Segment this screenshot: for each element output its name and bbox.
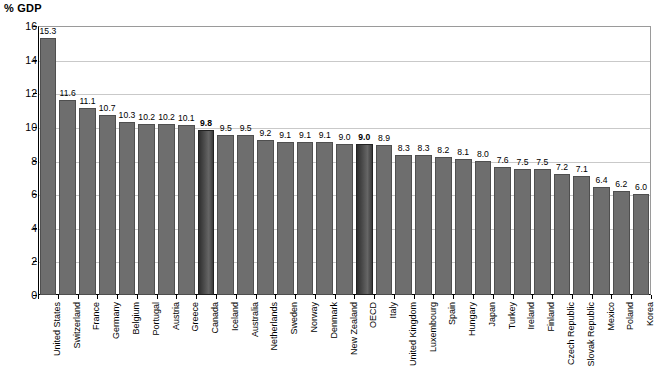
x-axis-tick-mark: [97, 295, 98, 299]
x-axis-tick-label: Slovak Republic: [586, 302, 596, 367]
x-axis-tick-mark: [117, 295, 118, 299]
bar-slot: 8.3: [414, 26, 434, 295]
x-axis-tick-mark: [532, 295, 533, 299]
bar-slot: 6.2: [611, 26, 631, 295]
x-axis-tick-mark: [78, 295, 79, 299]
x-axis-tick-mark: [453, 295, 454, 299]
x-axis-tick-mark: [433, 295, 434, 299]
x-axis-tick-mark: [572, 295, 573, 299]
bar: [494, 167, 511, 295]
bar-slot: 10.1: [176, 26, 196, 295]
bar-slot: 9.2: [256, 26, 276, 295]
x-axis-tick-label: OECD: [368, 302, 378, 328]
y-axis-tick-mark: [33, 194, 37, 195]
bar-slot: 10.3: [117, 26, 137, 295]
x-axis-tick-label: Norway: [309, 302, 319, 333]
bar-slot: 9.0: [354, 26, 374, 295]
x-axis-tick-label: Japan: [487, 302, 497, 327]
x-axis-tick-label: Switzerland: [72, 302, 82, 349]
x-axis-tick-mark: [335, 295, 336, 299]
bar-slot: 11.1: [78, 26, 98, 295]
x-axis-tick-mark: [354, 295, 355, 299]
bar: [534, 169, 551, 295]
x-axis-tick-label: Poland: [625, 302, 635, 330]
bar-value-label: 8.0: [477, 150, 489, 159]
x-axis-tick-mark: [216, 295, 217, 299]
x-axis-tick-label: Australia: [250, 302, 260, 337]
y-axis-tick-mark: [33, 228, 37, 229]
bar-value-label: 6.0: [635, 183, 647, 192]
bar-value-label: 8.2: [437, 146, 449, 155]
bar-slot: 7.5: [513, 26, 533, 295]
x-axis-tick-mark: [631, 295, 632, 299]
bar-highlighted: [198, 130, 215, 295]
bar-slot: 6.4: [592, 26, 612, 295]
x-axis-tick-mark: [592, 295, 593, 299]
bar-slot: 8.2: [433, 26, 453, 295]
bar: [554, 174, 571, 295]
x-axis-tick-label: Belgium: [131, 302, 141, 335]
bar: [99, 115, 116, 295]
bar-slot: 6.0: [631, 26, 651, 295]
x-axis-tick-label: Denmark: [329, 302, 339, 339]
x-axis-tick-mark: [137, 295, 138, 299]
bar-slot: 9.8: [196, 26, 216, 295]
x-axis-tick-label: Mexico: [606, 302, 616, 331]
bar-value-label: 6.4: [596, 176, 608, 185]
bar-slot: 7.6: [493, 26, 513, 295]
bar-value-label: 10.7: [99, 104, 116, 113]
bar: [277, 142, 294, 295]
bar-value-label: 7.6: [497, 156, 509, 165]
x-axis-tick-mark: [651, 295, 652, 299]
bar-slot: 8.9: [374, 26, 394, 295]
bar-value-label: 9.1: [319, 131, 331, 140]
x-axis-tick-label: Canada: [210, 302, 220, 334]
bar: [119, 122, 136, 295]
bar: [435, 157, 452, 295]
bar: [475, 161, 492, 296]
bar: [79, 108, 96, 295]
bar-slot: 9.1: [275, 26, 295, 295]
bar: [514, 169, 531, 295]
x-axis-tick-label: United States: [52, 302, 62, 356]
bar: [573, 176, 590, 295]
x-axis-tick-label: France: [91, 302, 101, 330]
x-axis-tick-mark: [513, 295, 514, 299]
x-axis-tick-label: Greece: [190, 302, 200, 332]
bar-slot: 9.1: [295, 26, 315, 295]
bar-value-label: 10.2: [158, 113, 175, 122]
y-axis-tick-mark: [33, 295, 37, 296]
bar-value-label: 10.1: [178, 114, 195, 123]
x-axis-tick-mark: [315, 295, 316, 299]
bar-value-label: 9.2: [259, 129, 271, 138]
x-axis-tick-mark: [176, 295, 177, 299]
x-axis-tick-mark: [58, 295, 59, 299]
x-axis-tick-mark: [38, 295, 39, 299]
bar-value-label: 9.1: [299, 131, 311, 140]
y-axis-tick-mark: [33, 261, 37, 262]
x-axis-tick-label: Italy: [388, 302, 398, 319]
bar-value-label: 8.3: [398, 144, 410, 153]
x-axis-tick-label: Hungary: [467, 302, 477, 336]
y-axis: 0246810121416: [0, 26, 37, 295]
bar-slot: 11.6: [58, 26, 78, 295]
bar-value-label: 15.3: [40, 27, 57, 36]
y-axis-tick-mark: [33, 127, 37, 128]
bar: [178, 125, 195, 295]
bar: [376, 145, 393, 295]
x-axis-tick-label: United Kingdom: [408, 302, 418, 366]
bar: [613, 191, 630, 295]
x-axis-tick-label: Spain: [447, 302, 457, 325]
bar-value-label: 9.5: [220, 124, 232, 133]
x-axis-tick-mark: [157, 295, 158, 299]
y-axis-tick-mark: [33, 60, 37, 61]
x-axis-tick-label: Czech Republic: [566, 302, 576, 365]
x-axis-tick-mark: [473, 295, 474, 299]
bar-value-label: 7.5: [516, 158, 528, 167]
bar-value-label: 9.5: [240, 124, 252, 133]
bar-slot: 7.2: [552, 26, 572, 295]
bar-value-label: 10.3: [119, 111, 136, 120]
bar-slot: 9.0: [335, 26, 355, 295]
bar: [455, 159, 472, 295]
x-axis-tick-label: Netherlands: [269, 302, 279, 351]
